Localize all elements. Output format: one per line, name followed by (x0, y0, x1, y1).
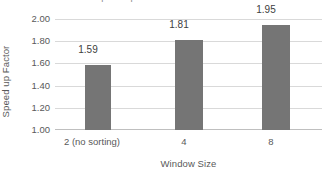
bar-window-size-8[interactable] (262, 25, 290, 130)
bar-window-size-2[interactable] (85, 65, 111, 130)
x-tick-label-2-no-sorting: 2 (no sorting) (43, 136, 141, 147)
bar-window-size-4[interactable] (175, 40, 203, 130)
y-tick-label-2-00: 2.00 (16, 14, 50, 24)
data-label-1-59: 1.59 (58, 44, 118, 55)
y-tick-label-1-20: 1.20 (16, 103, 50, 113)
data-label-1-81: 1.81 (149, 19, 209, 30)
data-label-1-95: 1.95 (236, 4, 296, 15)
x-tick-label-4: 4 (144, 136, 224, 147)
bar-chart: Speed up Factor vs Window Size Speed up … (0, 0, 330, 178)
y-tick-label-1-80: 1.80 (16, 36, 50, 46)
y-tick-label-1-40: 1.40 (16, 81, 50, 91)
x-axis-title: Window Size (55, 158, 322, 169)
plot-area (55, 19, 322, 130)
x-tick-label-8: 8 (231, 136, 311, 147)
y-tick-label-1-00: 1.00 (16, 125, 50, 135)
chart-title: Speed up Factor vs Window Size (0, 0, 330, 3)
y-tick-label-1-60: 1.60 (16, 58, 50, 68)
y-axis-title: Speed up Factor (0, 26, 14, 137)
